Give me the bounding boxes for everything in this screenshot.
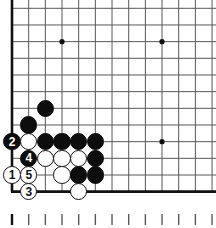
- stone-white-move-5[interactable]: 5: [20, 166, 38, 184]
- move-number-label: 3: [21, 184, 37, 200]
- stone-black-move-4[interactable]: 4: [20, 150, 38, 168]
- move-number-label: 1: [4, 167, 20, 183]
- stone-black-move-2[interactable]: 2: [3, 133, 21, 151]
- star-point: [159, 39, 164, 44]
- stone-black[interactable]: [20, 116, 38, 134]
- star-point: [159, 139, 164, 144]
- move-number-label: 5: [21, 167, 37, 183]
- go-diagram-figure: 24153: [0, 0, 216, 228]
- stone-black[interactable]: [87, 166, 105, 184]
- stone-white-move-1[interactable]: 1: [3, 166, 21, 184]
- move-number-label: 4: [21, 151, 37, 167]
- stone-black[interactable]: [37, 100, 55, 118]
- stone-white[interactable]: [37, 150, 55, 168]
- stone-white[interactable]: [53, 150, 71, 168]
- stone-black[interactable]: [87, 150, 105, 168]
- coordinate-ruler: [0, 206, 216, 228]
- stone-black[interactable]: [70, 166, 88, 184]
- move-number-label: 2: [4, 134, 20, 150]
- stone-black[interactable]: [53, 133, 71, 151]
- stone-white[interactable]: [53, 166, 71, 184]
- star-point: [59, 39, 64, 44]
- stone-white-move-3[interactable]: 3: [20, 183, 38, 201]
- ruler-ticks: [12, 214, 212, 225]
